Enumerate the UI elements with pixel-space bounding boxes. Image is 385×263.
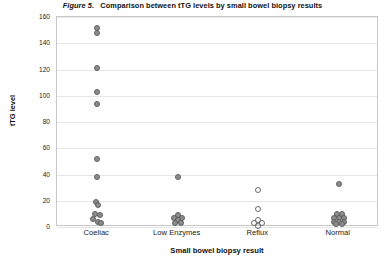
y-tick-label-60: 60 [43, 144, 50, 151]
figure-caption-text: Comparison between tTG levels by small b… [100, 1, 322, 10]
data-point [339, 221, 345, 227]
y-tick-label-120: 120 [39, 65, 50, 72]
y-tick-label-40: 40 [43, 170, 50, 177]
data-point [336, 181, 342, 187]
y-tick-label-160: 160 [39, 13, 50, 20]
gridline-y-80 [57, 122, 377, 123]
figure-container: Figure 5. Comparison between tTG levels … [0, 0, 385, 263]
data-point [94, 101, 100, 107]
x-axis-title: Small bowel biopsy result [56, 246, 378, 255]
data-point [255, 187, 261, 193]
x-axis-tick-labels: CoeliacLow EnzymesRefluxNormal [56, 228, 378, 242]
gridline-y-160 [57, 17, 377, 18]
y-tick-label-100: 100 [39, 91, 50, 98]
x-tick-label-low-enzymes: Low Enzymes [153, 228, 200, 237]
data-point [95, 202, 101, 208]
gridline-y-20 [57, 201, 377, 202]
gridline-y-40 [57, 175, 377, 176]
data-point [94, 89, 100, 95]
y-tick-label-0: 0 [46, 223, 50, 230]
gridline-y-120 [57, 70, 377, 71]
data-point [98, 220, 104, 226]
y-tick-label-80: 80 [43, 118, 50, 125]
gridline-y-140 [57, 43, 377, 44]
gridline-y-60 [57, 148, 377, 149]
figure-title: Figure 5. Comparison between tTG levels … [0, 1, 385, 10]
y-tick-label-20: 20 [43, 196, 50, 203]
data-point [94, 156, 100, 162]
plot-area [56, 16, 378, 226]
data-point [94, 174, 100, 180]
data-point [94, 30, 100, 36]
x-tick-label-coeliac: Coeliac [84, 228, 109, 237]
data-point [175, 174, 181, 180]
data-point [255, 206, 261, 212]
figure-number-label: Figure 5. [63, 1, 94, 10]
y-tick-label-140: 140 [39, 39, 50, 46]
x-tick-label-reflux: Reflux [246, 228, 268, 237]
data-point [97, 212, 103, 218]
data-point [178, 220, 184, 226]
gridline-y-100 [57, 96, 377, 97]
data-point [94, 65, 100, 71]
x-tick-label-normal: Normal [326, 228, 350, 237]
y-axis-tick-labels: 020406080100120140160 [0, 16, 54, 226]
